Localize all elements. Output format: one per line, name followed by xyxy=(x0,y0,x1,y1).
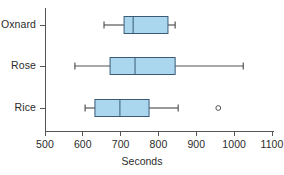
box-oxnard xyxy=(104,17,175,34)
x-tick-label-1100: 1100 xyxy=(247,138,284,150)
box-rice xyxy=(85,100,221,117)
box-rect xyxy=(95,100,149,117)
box-rect xyxy=(124,17,168,34)
box-rose xyxy=(75,58,243,75)
box-rect xyxy=(110,58,175,75)
boxes-layer xyxy=(75,17,243,117)
category-label-rose: Rose xyxy=(0,59,36,71)
x-axis-title: Seconds xyxy=(0,155,284,167)
category-label-oxnard: Oxnard xyxy=(0,18,36,30)
boxplot-chart: Oxnard Rose Rice 500 600 700 800 900 100… xyxy=(0,0,284,175)
outlier-point xyxy=(216,106,221,111)
category-label-rice: Rice xyxy=(0,101,36,113)
